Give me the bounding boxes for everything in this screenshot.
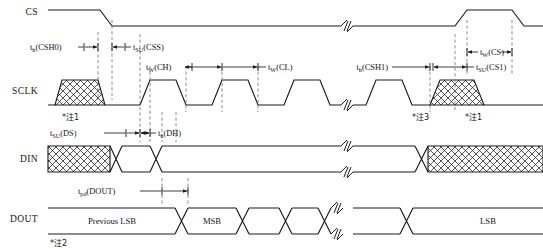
- bus-value-lsb: LSB: [480, 216, 496, 226]
- label-tpd-dout: tpd(DOUT): [78, 187, 116, 197]
- signal-label-sclk: SCLK: [12, 86, 38, 96]
- signal-label-din: DIN: [20, 154, 38, 164]
- waveform-cs: [48, 10, 543, 26]
- break-mark-dout: [331, 202, 343, 240]
- note-label-sclk-note3: *注3: [412, 112, 429, 122]
- break-mark-sclk: [341, 99, 353, 111]
- timing-diagram-canvas: CS SCLK DIN DOUT: [0, 0, 543, 249]
- din-undefined-region-right: [428, 146, 543, 172]
- timing-marker-th-csh1: th(CSH1): [357, 63, 430, 73]
- timing-marker-tw-ch: tW(CH): [146, 63, 222, 73]
- waveform-sclk: [48, 80, 543, 105]
- timing-marker-tpd-dout: tpd(DOUT): [78, 187, 188, 197]
- timing-marker-tsu-ds: tSU(DS): [50, 129, 140, 139]
- label-th-csh1: th(CSH1): [357, 63, 389, 73]
- timing-marker-tsu-css: tSU(CSS): [112, 43, 164, 53]
- break-mark-cs: [341, 20, 353, 32]
- timing-marker-tw-cl: tW(CL): [223, 63, 293, 73]
- note-label-sclk-right: *注1: [465, 112, 482, 122]
- note-label-dout: *注2: [50, 238, 67, 248]
- bus-value-previous-lsb: Previous LSB: [88, 216, 136, 226]
- din-undefined-region-left: [48, 146, 110, 172]
- bus-value-msb: MSB: [203, 216, 221, 226]
- label-tsu-ds: tSU(DS): [50, 129, 77, 139]
- timing-marker-th-csh0: th(CSH0): [30, 43, 98, 53]
- note-label-sclk-left: *注1: [62, 112, 79, 122]
- timing-marker-th-dh: th(DH): [141, 129, 181, 139]
- label-th-dh: th(DH): [158, 129, 181, 139]
- label-tw-ch: tW(CH): [146, 63, 172, 73]
- label-tsu-cs1: tSU(CS1): [476, 63, 506, 73]
- label-tw-cl: tW(CL): [268, 63, 293, 73]
- waveform-din: [48, 146, 543, 172]
- sclk-undefined-pulse-left: [55, 80, 105, 105]
- label-th-csh0: th(CSH0): [30, 43, 62, 53]
- label-tw-cs: tW(CS): [480, 48, 504, 58]
- break-mark-din: [341, 140, 353, 178]
- signal-label-dout: DOUT: [10, 214, 38, 224]
- label-tsu-css: tSU(CSS): [133, 43, 164, 53]
- sclk-undefined-pulse-right: [430, 80, 484, 105]
- timing-marker-tw-cs: tW(CS): [467, 48, 512, 58]
- signal-label-cs: CS: [26, 7, 38, 17]
- timing-marker-tsu-cs1: tSU(CS1): [433, 63, 506, 73]
